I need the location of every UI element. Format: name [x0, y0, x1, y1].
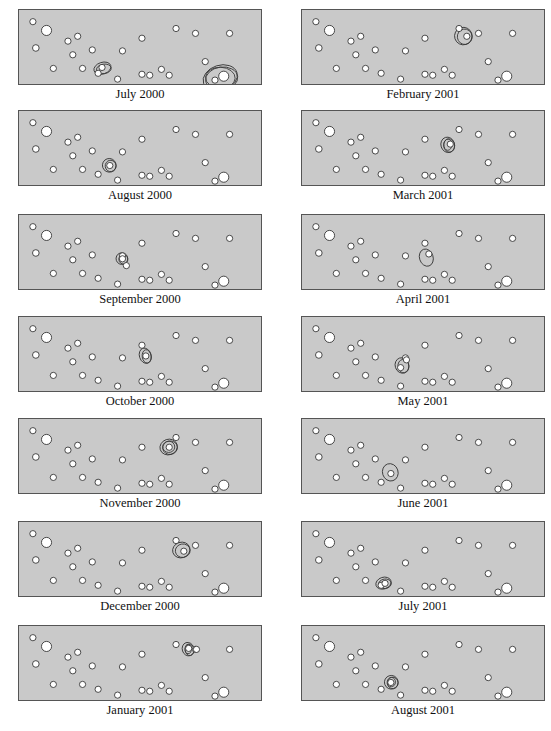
station-dot [70, 257, 76, 263]
station-dot [362, 372, 368, 378]
station-dot [422, 342, 428, 348]
station-dot [475, 131, 481, 137]
station-dot [422, 480, 428, 486]
station-dot [147, 481, 153, 487]
station-dot [441, 475, 447, 481]
station-dot [192, 30, 198, 36]
station-dot [313, 120, 319, 126]
station-dot [212, 77, 218, 83]
station-dot [226, 235, 232, 241]
station-dot [95, 275, 101, 281]
station-dot [202, 365, 208, 371]
station-dot [114, 588, 120, 594]
station-dot [397, 281, 403, 287]
station-dot [422, 687, 428, 693]
station-dot [75, 649, 81, 655]
station-dot [313, 19, 319, 25]
panel-caption: October 2000 [18, 394, 262, 409]
station-dot [139, 35, 145, 41]
station-dot [397, 177, 403, 183]
station-dot [422, 35, 428, 41]
station-dot [75, 33, 81, 39]
station-dot [139, 687, 145, 693]
station-dot [99, 64, 105, 70]
station-dot [441, 271, 447, 277]
station-dot [212, 384, 218, 390]
station-dot [202, 570, 208, 576]
station-dot [139, 342, 145, 348]
station-dot [41, 434, 51, 444]
station-dot [358, 649, 364, 655]
station-dot [372, 47, 378, 53]
station-dot [358, 238, 364, 244]
panel-caption: November 2000 [18, 496, 262, 511]
station-dot [212, 589, 218, 595]
panel-caption: March 2001 [301, 188, 545, 203]
station-dot [70, 153, 76, 159]
station-dot [441, 578, 447, 584]
map-panel [18, 214, 262, 290]
station-dot [397, 76, 403, 82]
station-dot [65, 550, 71, 556]
station-dot [212, 178, 218, 184]
panel-caption: May 2001 [301, 394, 545, 409]
station-dot [95, 479, 101, 485]
station-dot [430, 688, 436, 694]
station-dot [502, 480, 512, 490]
station-dot [226, 30, 232, 36]
station-dot [158, 578, 164, 584]
map-panel [301, 9, 545, 85]
panel-caption: July 2001 [301, 599, 545, 614]
station-dot [139, 547, 145, 553]
station-dot [402, 457, 408, 463]
station-dot [441, 66, 447, 72]
station-dot [119, 256, 125, 262]
station-dot [495, 178, 501, 184]
map-panel [301, 625, 545, 701]
station-dot [475, 646, 481, 652]
station-dot [388, 679, 394, 685]
station-dot [403, 357, 409, 363]
station-dot [70, 668, 76, 674]
station-dot [449, 72, 455, 78]
station-dot [422, 136, 428, 142]
station-dot [75, 238, 81, 244]
panel-january-2001: January 2001 [18, 625, 264, 718]
station-dot [430, 584, 436, 590]
station-dot [430, 379, 436, 385]
station-dot [485, 570, 491, 576]
station-dot [441, 373, 447, 379]
station-dot [422, 444, 428, 450]
station-dot [41, 641, 51, 651]
panel-may-2001: May 2001 [301, 316, 547, 409]
station-dot [456, 25, 462, 31]
station-dot [50, 65, 56, 71]
station-dot [449, 481, 455, 487]
station-dot [353, 52, 359, 58]
station-dot [502, 71, 512, 81]
station-dot [348, 139, 354, 145]
panel-october-2000: October 2000 [18, 316, 264, 409]
station-dot [158, 271, 164, 277]
panel-march-2001: March 2001 [301, 110, 547, 203]
station-dot [186, 645, 192, 651]
station-dot [219, 378, 229, 388]
station-dot [475, 30, 481, 36]
station-dot [173, 434, 179, 440]
dot-map [19, 626, 261, 700]
map-panel [18, 110, 262, 186]
station-dot [219, 480, 229, 490]
station-dot [79, 372, 85, 378]
panel-caption: December 2000 [18, 599, 262, 614]
station-dot [441, 167, 447, 173]
station-dot [441, 682, 447, 688]
station-dot [353, 564, 359, 570]
station-dot [333, 270, 339, 276]
station-dot [219, 71, 229, 81]
station-dot [495, 77, 501, 83]
station-dot [475, 542, 481, 548]
station-dot [485, 58, 491, 64]
station-dot [114, 692, 120, 698]
station-dot [509, 235, 515, 241]
map-panel [301, 521, 545, 597]
